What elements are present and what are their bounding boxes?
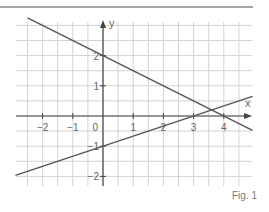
x-tick-label: 4: [221, 122, 227, 133]
line-1: [28, 18, 253, 130]
line-2: [15, 96, 252, 175]
coordinate-plot: xy −2−11234−2−1120: [0, 0, 269, 212]
x-tick-label: 1: [130, 122, 136, 133]
figure-caption: Fig. 1: [232, 190, 257, 201]
y-axis-arrow-icon: [100, 20, 106, 28]
data-lines: [15, 18, 252, 176]
origin-label: 0: [92, 122, 98, 133]
x-tick-label: 3: [191, 122, 197, 133]
grid: [16, 22, 252, 186]
x-tick-label: −2: [37, 122, 49, 133]
axes: xy: [16, 17, 252, 186]
y-tick-label: −2: [88, 171, 100, 182]
y-tick-label: 1: [93, 81, 99, 92]
y-axis-label: y: [109, 17, 115, 29]
x-tick-label: −1: [67, 122, 79, 133]
x-axis-arrow-icon: [244, 113, 252, 119]
x-tick-label: 2: [161, 122, 167, 133]
